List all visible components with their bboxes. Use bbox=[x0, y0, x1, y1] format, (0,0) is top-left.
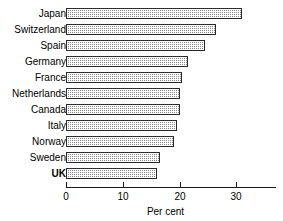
bar-row: Switzerland bbox=[0, 22, 283, 37]
bar-row: UK bbox=[0, 166, 283, 181]
x-tick-20 bbox=[180, 182, 181, 188]
x-axis-title-text: Per cent bbox=[147, 206, 184, 218]
bar-row: Italy bbox=[0, 118, 283, 133]
category-label-germany: Germany bbox=[25, 54, 66, 69]
bar-sweden bbox=[66, 152, 160, 163]
bar-row: Netherlands bbox=[0, 86, 283, 101]
bar-norway bbox=[66, 136, 174, 147]
category-label-italy: Italy bbox=[48, 118, 66, 133]
x-tick-label-10: 10 bbox=[108, 191, 138, 203]
category-label-norway: Norway bbox=[32, 134, 66, 149]
bar-canada bbox=[66, 104, 180, 115]
x-tick-label-20: 20 bbox=[165, 191, 195, 203]
bar-row: Japan bbox=[0, 6, 283, 21]
x-tick-label-0: 0 bbox=[51, 191, 81, 203]
bar-row: Spain bbox=[0, 38, 283, 53]
category-label-switzerland: Switzerland bbox=[14, 22, 66, 37]
category-label-france: France bbox=[35, 70, 66, 85]
bar-row: Germany bbox=[0, 54, 283, 69]
bar-row: Canada bbox=[0, 102, 283, 117]
plot-area: Japan Switzerland Spain Germany France N… bbox=[0, 0, 283, 221]
category-label-canada: Canada bbox=[31, 102, 66, 117]
x-axis-title: Per cent bbox=[0, 206, 283, 218]
bar-netherlands bbox=[66, 88, 180, 99]
bar-france bbox=[66, 72, 182, 83]
category-label-uk: UK bbox=[52, 166, 66, 181]
bar-row: France bbox=[0, 70, 283, 85]
bar-switzerland bbox=[66, 24, 216, 35]
bar-chart: Japan Switzerland Spain Germany France N… bbox=[0, 0, 283, 221]
bar-row: Sweden bbox=[0, 150, 283, 165]
bar-row: Norway bbox=[0, 134, 283, 149]
x-tick-10 bbox=[123, 182, 124, 188]
bar-spain bbox=[66, 40, 205, 51]
x-tick-30 bbox=[236, 182, 237, 188]
bar-italy bbox=[66, 120, 177, 131]
bar-japan bbox=[66, 8, 242, 19]
x-tick-0 bbox=[66, 182, 67, 188]
x-axis-line bbox=[66, 187, 276, 188]
category-label-netherlands: Netherlands bbox=[12, 86, 66, 101]
category-label-japan: Japan bbox=[39, 6, 66, 21]
x-tick-label-30: 30 bbox=[221, 191, 251, 203]
bar-germany bbox=[66, 56, 188, 67]
bar-uk bbox=[66, 168, 157, 179]
category-label-spain: Spain bbox=[40, 38, 66, 53]
category-label-sweden: Sweden bbox=[30, 150, 66, 165]
